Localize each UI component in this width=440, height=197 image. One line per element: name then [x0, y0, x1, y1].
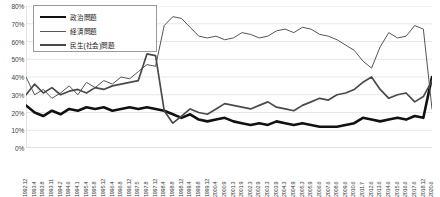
x-axis-tick-label: 2012.6	[368, 182, 374, 197]
x-axis-tick-label: 1992.12	[22, 179, 28, 197]
x-axis-tick-label: 2010.6	[350, 182, 356, 197]
legend-line-swatch	[40, 31, 66, 32]
x-axis-tick-label: 2013.6	[376, 182, 382, 197]
x-axis-tick-label: 1995.4	[83, 182, 89, 197]
x-axis-tick-label: 1999.4	[186, 182, 192, 197]
legend-item-label: 経済問題	[70, 26, 97, 36]
x-axis-tick-label: 2016.6	[402, 182, 408, 197]
x-axis-tick-label: 2005.9	[307, 182, 313, 197]
x-axis-tick-label: 2006.6	[316, 182, 322, 197]
chart-legend: 政治問題経済問題民生(社会)問題	[33, 5, 157, 52]
x-axis-tick-label: 1996.8	[117, 182, 123, 197]
x-axis-tick-label: 1995.8	[91, 182, 97, 197]
x-axis-tick-label: 1999.8	[195, 182, 201, 197]
x-axis-tick-label: 2002.3	[247, 182, 253, 197]
x-axis-tick-label: 2001.9	[238, 182, 244, 197]
x-axis-tick-label: 1996.4	[109, 182, 115, 197]
x-axis-tick-label: 2011.7	[359, 182, 365, 197]
x-axis-tick-label: 1995.12	[100, 179, 106, 197]
x-axis-tick-label: 2009.6	[342, 182, 348, 197]
x-axis-tick-label: 1999.12	[204, 179, 210, 197]
x-axis-tick-label: 2020.6	[428, 182, 434, 197]
y-axis-tick-label: 60%	[12, 38, 24, 45]
x-axis-tick-label: 2014.6	[385, 182, 391, 197]
x-axis-tick-label: 2003.3	[264, 182, 270, 197]
x-axis-tick-label: 1994.1	[74, 182, 80, 197]
x-axis-tick-label: 1993.4	[31, 182, 37, 197]
y-axis-tick-label: 0%	[15, 145, 24, 152]
x-axis-tick-label: 2008.6	[333, 182, 339, 197]
x-axis-tick-label: 1993.8	[39, 182, 45, 197]
x-axis-tick-label: 2000.9	[221, 182, 227, 197]
x-axis-tick-label: 2002.9	[255, 182, 261, 197]
x-axis-tick-label: 2004.3	[281, 182, 287, 197]
y-axis-tick-label: 20%	[12, 109, 24, 116]
x-axis-tick-label: 2001.3	[230, 182, 236, 197]
x-axis-tick-label: 1994.6	[65, 182, 71, 197]
legend-item[interactable]: 民生(社会)問題	[40, 38, 115, 52]
legend-line-swatch	[40, 16, 66, 19]
data-series-line	[26, 54, 432, 123]
y-axis-tick-label: 10%	[12, 127, 24, 134]
x-axis-tick-label: 1996.12	[126, 179, 132, 197]
y-axis-tick-label: 80%	[12, 3, 24, 10]
legend-item[interactable]: 経済問題	[40, 24, 97, 38]
x-axis-tick-label: 2003.9	[273, 182, 279, 197]
legend-item[interactable]: 政治問題	[40, 10, 97, 24]
x-axis-tick-label: 2018.12	[420, 179, 426, 197]
y-axis-tick-label: 40%	[12, 74, 24, 81]
x-axis-tick-label: 2007.6	[325, 182, 331, 197]
x-axis-tick-label: 1998.8	[169, 182, 175, 197]
x-axis-tick-label: 1993.11	[48, 179, 54, 197]
x-axis-tick-label: 2017.6	[411, 182, 417, 197]
x-axis-tick-label: 2005.3	[299, 182, 305, 197]
line-chart: 0%10%20%30%40%50%60%70%80% 1992.121993.4…	[0, 0, 440, 197]
x-axis-tick-label: 1997.8	[143, 182, 149, 197]
y-axis-tick-label: 70%	[12, 20, 24, 27]
x-axis-tick-label: 1997.5	[134, 182, 140, 197]
x-axis: 1992.121993.41993.81993.111994.21994.619…	[26, 150, 432, 197]
y-axis-tick-label: 50%	[12, 56, 24, 63]
x-axis-tick-label: 1997.12	[152, 179, 158, 197]
x-axis-tick-label: 1998.12	[178, 179, 184, 197]
legend-item-label: 政治問題	[70, 12, 97, 22]
y-axis: 0%10%20%30%40%50%60%70%80%	[0, 0, 24, 197]
x-axis-tick-label: 1994.2	[57, 182, 63, 197]
x-axis-tick-label: 1998.4	[160, 182, 166, 197]
y-axis-tick-label: 30%	[12, 91, 24, 98]
x-axis-tick-label: 2004.9	[290, 182, 296, 197]
legend-line-swatch	[40, 44, 66, 46]
x-axis-tick-label: 2000.4	[212, 182, 218, 197]
legend-item-label: 民生(社会)問題	[70, 40, 115, 50]
x-axis-tick-label: 2015.6	[394, 182, 400, 197]
data-series-line	[26, 77, 432, 127]
